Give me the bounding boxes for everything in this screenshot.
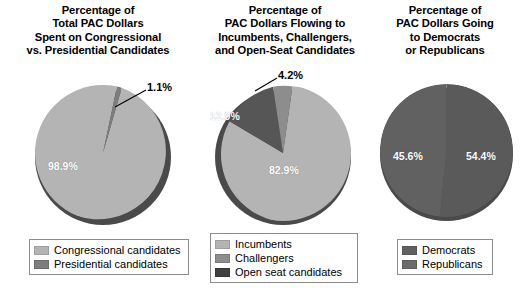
legend-swatch-icon <box>215 268 230 277</box>
chart-panel-democrats-vs-republicans: Percentage of PAC Dollars Going to Democ… <box>370 0 520 299</box>
pie-chart-figure: Percentage of Total PAC Dollars Spent on… <box>0 0 520 299</box>
legend-label: Republicans <box>422 258 483 271</box>
chart-title-3-line-3: to Democrats <box>370 31 520 44</box>
legend-row: Incumbents <box>215 237 351 251</box>
legend-chart-2: Incumbents Challengers Open seat candida… <box>210 233 358 283</box>
legend-label: Challengers <box>235 252 294 265</box>
legend-label: Presidential candidates <box>54 258 168 271</box>
legend-swatch-icon <box>34 246 49 255</box>
chart-title-3-line-4: or Republicans <box>370 44 520 57</box>
chart-panel-congressional-vs-presidential: Percentage of Total PAC Dollars Spent on… <box>0 0 196 299</box>
legend-swatch-icon <box>402 246 417 255</box>
legend-swatch-icon <box>402 260 417 269</box>
legend-row: Presidential candidates <box>34 257 182 271</box>
legend-label: Democrats <box>422 244 475 257</box>
legend-row: Challengers <box>215 251 351 265</box>
pie-1-callout-presidential: 1.1% <box>147 81 172 93</box>
chart-panel-incumbents-challengers-open-seat: Percentage of PAC Dollars Flowing to Inc… <box>190 0 380 299</box>
legend-row: Republicans <box>402 257 486 271</box>
legend-row: Open seat candidates <box>215 265 351 279</box>
legend-row: Congressional candidates <box>34 243 182 257</box>
legend-label: Open seat candidates <box>235 266 342 279</box>
legend-chart-3: Democrats Republicans <box>397 239 493 275</box>
chart-title-3-line-1: Percentage of <box>370 4 520 17</box>
legend-swatch-icon <box>34 260 49 269</box>
legend-swatch-icon <box>215 254 230 263</box>
pie-3-label-democrats: 45.6% <box>393 150 423 162</box>
legend-label: Congressional candidates <box>54 244 181 257</box>
legend-label: Incumbents <box>235 238 292 251</box>
legend-chart-1: Congressional candidates Presidential ca… <box>29 239 189 275</box>
pie-3-label-republicans: 54.4% <box>466 150 496 162</box>
chart-title-3-line-2: PAC Dollars Going <box>370 17 520 30</box>
chart-title-3: Percentage of PAC Dollars Going to Democ… <box>370 4 520 58</box>
pie-2-callout-open-seat: 4.2% <box>278 69 303 81</box>
legend-swatch-icon <box>215 240 230 249</box>
legend-row: Democrats <box>402 243 486 257</box>
